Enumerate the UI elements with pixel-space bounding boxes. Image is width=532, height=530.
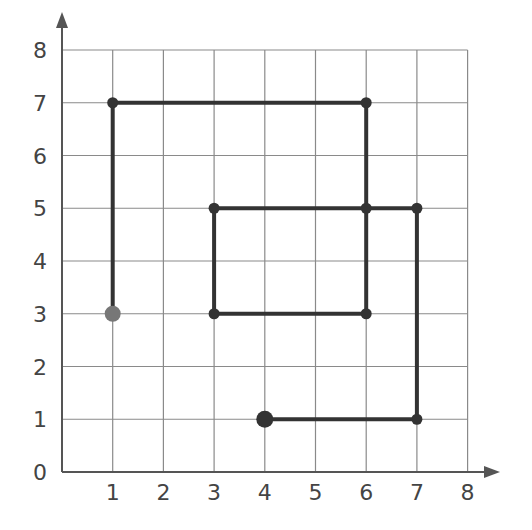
y-tick-label: 5 xyxy=(33,196,47,221)
x-tick-label: 8 xyxy=(461,480,475,505)
vertex-point xyxy=(107,97,118,108)
y-tick-label: 8 xyxy=(33,38,47,63)
y-tick-label: 2 xyxy=(33,355,47,380)
x-axis-arrow-icon xyxy=(484,466,500,478)
vertex-point xyxy=(361,97,372,108)
x-tick-label: 3 xyxy=(207,480,221,505)
vertex-point xyxy=(411,203,422,214)
y-tick-label: 4 xyxy=(33,249,47,274)
x-tick-label: 2 xyxy=(156,480,170,505)
end-point xyxy=(256,411,273,428)
plot-area: 12345678012345678 xyxy=(0,0,532,530)
y-axis-arrow-icon xyxy=(56,12,68,28)
x-tick-label: 7 xyxy=(410,480,424,505)
x-tick-label: 5 xyxy=(309,480,323,505)
vertex-point xyxy=(209,203,220,214)
x-tick-label: 4 xyxy=(258,480,272,505)
x-tick-label: 6 xyxy=(359,480,373,505)
y-tick-label: 1 xyxy=(33,407,47,432)
y-tick-label: 7 xyxy=(33,91,47,116)
vertex-point xyxy=(361,203,372,214)
y-tick-label: 0 xyxy=(33,460,47,485)
y-tick-label: 3 xyxy=(33,302,47,327)
vertex-point xyxy=(411,414,422,425)
start-point xyxy=(105,306,121,322)
vertex-point xyxy=(361,308,372,319)
coordinate-grid-diagram: 12345678012345678 xyxy=(0,0,532,530)
vertex-point xyxy=(209,308,220,319)
y-tick-label: 6 xyxy=(33,144,47,169)
x-tick-label: 1 xyxy=(106,480,120,505)
